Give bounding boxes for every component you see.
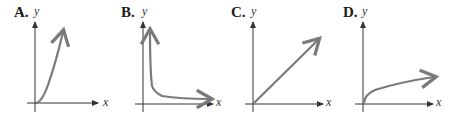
graph-panel-d: D. y x: [330, 0, 442, 119]
graph-panel-b: B. y x: [110, 0, 222, 119]
graph-panel-c: C. y x: [220, 0, 332, 119]
graph-c-plot: [220, 0, 332, 119]
graph-d-plot: [330, 0, 450, 119]
graph-panel-a: A. y x: [0, 0, 112, 119]
graph-a-plot: [0, 0, 112, 119]
curve: [36, 32, 63, 103]
graph-b-plot: [110, 0, 222, 119]
